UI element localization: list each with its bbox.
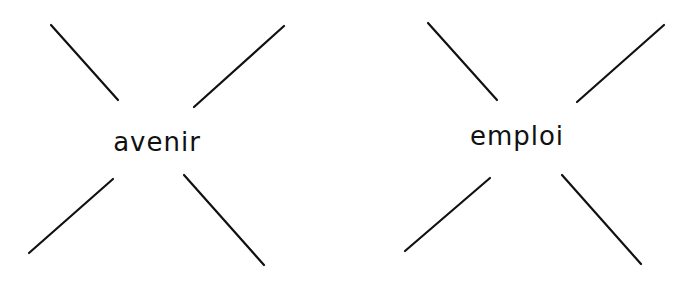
word-emploi: emploi xyxy=(470,121,564,151)
line-top-left xyxy=(51,25,118,100)
line-top-left xyxy=(428,23,497,100)
line-bottom-left xyxy=(405,178,490,251)
word-avenir: avenir xyxy=(113,127,201,157)
line-bottom-right xyxy=(562,175,641,264)
line-bottom-left xyxy=(29,179,113,253)
line-top-right xyxy=(194,26,284,107)
line-top-right xyxy=(577,25,664,102)
line-bottom-right xyxy=(184,175,264,265)
diagram-canvas xyxy=(0,0,698,281)
